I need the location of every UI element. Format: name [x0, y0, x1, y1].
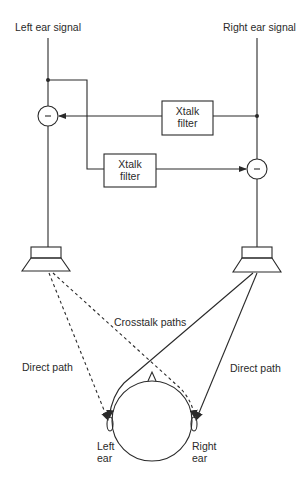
upper-filter-line1: Xtalk: [162, 105, 213, 117]
right-ear-label: Right ear: [192, 440, 217, 464]
nose-icon: [148, 372, 156, 381]
left-ear-label: Left ear: [97, 440, 115, 464]
right-junction-dot: [255, 114, 259, 118]
direct-path-right-label: Direct path: [230, 362, 281, 374]
left-feed-line: [48, 80, 104, 169]
lower-filter-line1: Xtalk: [104, 158, 156, 170]
left-crosstalk-path: [53, 273, 195, 418]
upper-xtalk-filter-label: Xtalk filter: [162, 105, 213, 129]
left-speaker-icon: [22, 247, 70, 271]
right-speaker-icon: [233, 247, 281, 272]
lower-xtalk-filter-label: Xtalk filter: [104, 158, 156, 182]
lower-filter-line2: filter: [104, 170, 156, 182]
left-ear-line1: Left: [97, 440, 115, 452]
left-ear-signal-label: Left ear signal: [15, 21, 81, 33]
crosstalk-paths-label: Crosstalk paths: [114, 316, 186, 328]
left-ear-line2: ear: [97, 452, 115, 464]
right-ear-line1: Right: [192, 440, 217, 452]
right-ear-line2: ear: [192, 452, 217, 464]
upper-filter-line2: filter: [162, 117, 213, 129]
left-junction-dot: [46, 78, 50, 82]
right-crosstalk-path: [109, 273, 253, 418]
direct-path-left-label: Direct path: [22, 361, 73, 373]
crosstalk-cancellation-diagram: [0, 0, 307, 480]
listener-head: [112, 381, 192, 461]
left-direct-path: [49, 273, 108, 420]
right-ear-signal-label: Right ear signal: [223, 21, 296, 33]
